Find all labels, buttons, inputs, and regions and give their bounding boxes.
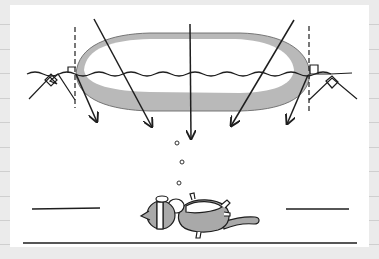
bubble-icon (180, 160, 184, 164)
left-normal-construct (29, 27, 76, 108)
right-normal-construct (309, 26, 357, 112)
bubble-icon (175, 141, 179, 145)
cat-icon (141, 193, 259, 238)
bubbles (175, 141, 184, 185)
refraction-illustration (0, 0, 379, 259)
bubble-icon (177, 181, 181, 185)
arrow-icon (190, 24, 191, 139)
